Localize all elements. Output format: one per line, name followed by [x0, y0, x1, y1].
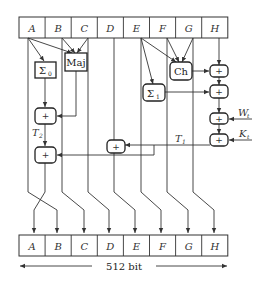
adders: +++++++: [35, 65, 228, 163]
sigma0-block: Σ 0: [35, 62, 56, 78]
adder-wt-plus-icon: +: [215, 114, 223, 124]
sigma1-block: Σ 1: [143, 84, 165, 101]
top-register-cell-e: E: [132, 23, 141, 34]
bottom-register-cell-g: G: [185, 241, 193, 252]
to-a-out: [34, 192, 45, 233]
f-to-ch-arrow: [167, 38, 179, 62]
to-f-out: [141, 192, 161, 233]
top-register-cell-f: F: [158, 23, 167, 34]
maj-label: Maj: [66, 57, 85, 68]
a-to-maj-arrow: [28, 38, 72, 53]
adder-maj-sigma0-plus-icon: +: [42, 111, 50, 121]
bottom-register-cell-d: D: [105, 241, 114, 252]
to-h-out: [193, 192, 214, 233]
top-register-cell-c: C: [80, 23, 88, 34]
sigma1-subscript: 1: [156, 93, 160, 100]
bottom-register-cell-a: A: [27, 241, 35, 252]
adder-t1-t2-plus-icon: +: [42, 150, 50, 160]
adder-sigma1-plus-icon: +: [215, 87, 223, 97]
c-to-maj-arrow: [77, 38, 88, 53]
t2-sub: 2: [38, 132, 43, 139]
top-register-cell-h: H: [209, 23, 219, 34]
t1-to-a-adder-arrow: [57, 145, 154, 155]
sigma1-symbol: Σ: [147, 88, 154, 99]
bottom-register: ABCDEFGH: [19, 235, 228, 256]
to-d-out: [88, 192, 109, 233]
adder-d-t1-plus-icon: +: [112, 142, 120, 152]
wt-label: W t: [238, 107, 250, 119]
bottom-register-cell-e: E: [132, 241, 141, 252]
top-register-cell-b: B: [53, 23, 61, 34]
to-b-out: [28, 192, 57, 233]
top-register: ABCDEFGH: [19, 17, 228, 38]
top-register-cell-d: D: [105, 23, 114, 34]
maj-to-adder-arrow: [57, 71, 76, 116]
bottom-register-cell-b: B: [53, 241, 61, 252]
kt-label: K t: [238, 128, 250, 140]
wt-sub: t: [247, 112, 250, 119]
sha256-round-diagram: ABCDEFGH: [0, 0, 270, 284]
a-to-sigma0-arrow: [28, 38, 44, 61]
sigma0-subscript: 0: [48, 70, 52, 77]
to-c-out: [62, 192, 84, 233]
b-to-maj-arrow: [62, 38, 75, 53]
ch-block: Ch: [170, 62, 192, 80]
bottom-register-cell-h: H: [209, 241, 219, 252]
adder-kt-plus-icon: +: [215, 135, 223, 145]
top-register-cell-a: A: [27, 23, 35, 34]
bottom-register-cell-f: F: [158, 241, 167, 252]
adder-h-ch-plus-icon: +: [215, 66, 223, 76]
t2-label: T 2: [32, 127, 43, 139]
ch-label: Ch: [174, 66, 189, 77]
bottom-register-cell-c: C: [80, 241, 88, 252]
to-e-out: [114, 192, 135, 233]
kt-main: K: [238, 128, 247, 139]
kt-sub: t: [247, 133, 250, 140]
t1-label: T 1: [175, 133, 186, 145]
to-g-out: [167, 192, 188, 233]
sigma0-symbol: Σ: [39, 65, 46, 76]
maj-block: Maj: [65, 53, 87, 71]
g-to-ch-arrow: [182, 38, 193, 62]
width-label: 512 bit: [106, 261, 142, 272]
top-register-cell-g: G: [185, 23, 193, 34]
t1-sub: 1: [182, 138, 186, 145]
